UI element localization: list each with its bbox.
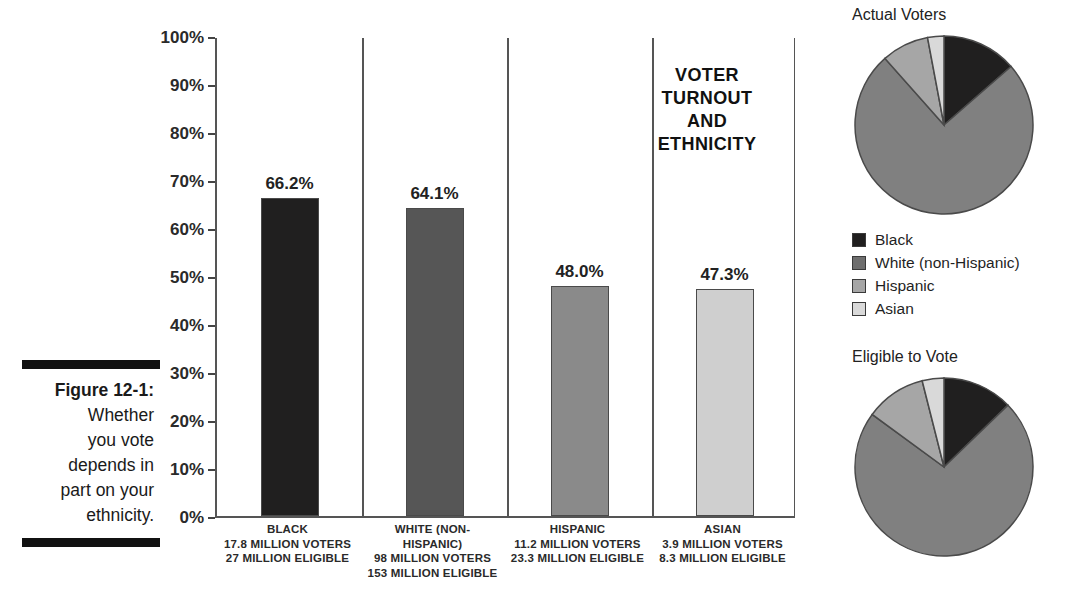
pie-title-actual-voters: Actual Voters	[852, 6, 946, 24]
figure-caption: Figure 12-1: Whether you vote depends in…	[0, 360, 160, 547]
legend-label: Black	[875, 231, 913, 249]
y-axis-tick-label-10: 10%	[170, 460, 204, 480]
caption-rule-top	[22, 360, 160, 369]
pie-legend: BlackWhite (non-Hispanic)HispanicAsian	[852, 228, 1020, 320]
category-eligible: 153 MILLION ELIGIBLE	[348, 566, 518, 581]
y-axis-tick-label-80: 80%	[170, 124, 204, 144]
legend-swatch-icon	[852, 279, 866, 293]
column-separator	[362, 38, 364, 516]
y-axis-tick-mark-70	[208, 181, 215, 183]
chart-title-line-3: AND	[632, 110, 782, 133]
y-axis-tick-label-30: 30%	[170, 364, 204, 384]
y-axis-tick-label-60: 60%	[170, 220, 204, 240]
y-axis: 100%90%80%70%60%50%40%30%20%10%0%	[150, 20, 208, 520]
y-axis-tick-mark-20	[208, 421, 215, 423]
legend-item: Asian	[852, 297, 1020, 320]
y-axis-tick-label-70: 70%	[170, 172, 204, 192]
bar-asian	[696, 289, 754, 516]
y-axis-tick-label-20: 20%	[170, 412, 204, 432]
x-axis-category-label: ASIAN3.9 MILLION VOTERS8.3 MILLION ELIGI…	[638, 522, 808, 566]
bar-black	[261, 198, 319, 516]
y-axis-tick-mark-60	[208, 229, 215, 231]
legend-swatch-icon	[852, 256, 866, 270]
chart-title: VOTERTURNOUTANDETHNICITY	[632, 64, 782, 156]
caption-line-3: you vote	[0, 428, 154, 453]
caption-line-6: ethnicity.	[0, 503, 154, 528]
y-axis-tick-mark-0	[208, 517, 215, 519]
legend-swatch-icon	[852, 302, 866, 316]
y-axis-tick-label-50: 50%	[170, 268, 204, 288]
plot-area: VOTERTURNOUTANDETHNICITY 66.2%64.1%48.0%…	[215, 38, 795, 518]
y-axis-tick-mark-50	[208, 277, 215, 279]
category-name: ASIAN	[638, 522, 808, 537]
y-axis-tick-mark-40	[208, 325, 215, 327]
legend-item: White (non-Hispanic)	[852, 251, 1020, 274]
bar-chart: 100%90%80%70%60%50%40%30%20%10%0% VOTERT…	[150, 20, 810, 600]
caption-text: Figure 12-1: Whether you vote depends in…	[0, 378, 160, 528]
y-axis-tick-mark-30	[208, 373, 215, 375]
y-axis-tick-mark-80	[208, 133, 215, 135]
chart-title-line-1: VOTER	[632, 64, 782, 87]
category-eligible: 8.3 MILLION ELIGIBLE	[638, 551, 808, 566]
y-axis-tick-label-100: 100%	[161, 28, 204, 48]
y-axis-tick-label-0: 0%	[179, 508, 204, 528]
legend-label: Hispanic	[875, 277, 934, 295]
y-axis-tick-mark-90	[208, 85, 215, 87]
column-separator	[507, 38, 509, 516]
legend-item: Hispanic	[852, 274, 1020, 297]
figure-page: Figure 12-1: Whether you vote depends in…	[0, 0, 1081, 616]
y-axis-tick-label-90: 90%	[170, 76, 204, 96]
chart-title-line-4: ETHNICITY	[632, 133, 782, 156]
pie-chart-actual-voters	[852, 32, 1052, 218]
bar-value-label: 48.0%	[525, 262, 635, 282]
pie-panel: Actual Voters BlackWhite (non-Hispanic)H…	[820, 0, 1081, 616]
legend-item: Black	[852, 228, 1020, 251]
pie-chart-eligible-to-vote	[852, 374, 1052, 560]
legend-label: White (non-Hispanic)	[875, 254, 1020, 272]
chart-title-line-2: TURNOUT	[632, 87, 782, 110]
bar-value-label: 47.3%	[670, 265, 780, 285]
caption-rule-bottom	[22, 538, 160, 547]
caption-line-2: Whether	[0, 403, 154, 428]
caption-line-4: depends in	[0, 453, 154, 478]
legend-label: Asian	[875, 300, 914, 318]
caption-line-1: Figure 12-1:	[0, 378, 154, 403]
y-axis-tick-label-40: 40%	[170, 316, 204, 336]
bar-hispanic	[551, 286, 609, 516]
bar-value-label: 66.2%	[235, 174, 345, 194]
bar-value-label: 64.1%	[380, 184, 490, 204]
legend-swatch-icon	[852, 233, 866, 247]
pie-title-eligible-to-vote: Eligible to Vote	[852, 348, 958, 366]
y-axis-tick-mark-10	[208, 469, 215, 471]
category-voters: 3.9 MILLION VOTERS	[638, 537, 808, 552]
bar-white-non-hispanic	[406, 208, 464, 516]
column-separator	[652, 38, 654, 516]
caption-line-5: part on your	[0, 478, 154, 503]
y-axis-tick-mark-100	[208, 37, 215, 39]
